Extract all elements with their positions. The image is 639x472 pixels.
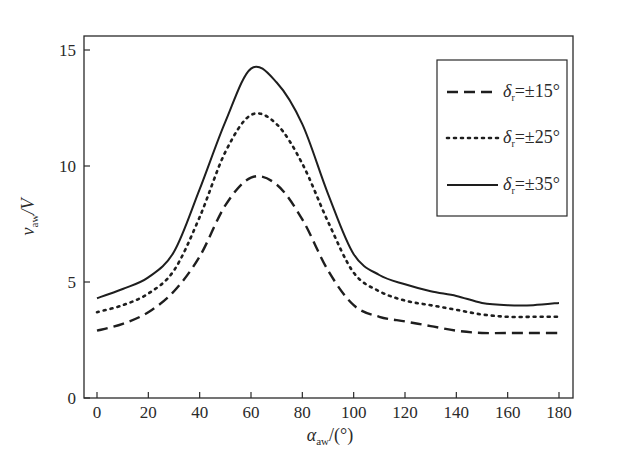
x-tick-label: 100 xyxy=(341,403,367,422)
x-tick-label: 160 xyxy=(495,403,521,422)
x-tick-label: 20 xyxy=(140,403,157,422)
x-tick-label: 140 xyxy=(444,403,470,422)
legend: δr=±15°δr=±25°δr=±35° xyxy=(437,60,567,216)
x-tick-label: 120 xyxy=(392,403,418,422)
x-tick-label: 180 xyxy=(546,403,572,422)
x-axis-ticks: 020406080100120140160180 xyxy=(93,392,572,422)
x-axis-label: αaw/(°) xyxy=(307,425,353,447)
x-tick-label: 60 xyxy=(243,403,260,422)
y-tick-label: 15 xyxy=(59,41,76,60)
y-tick-label: 10 xyxy=(59,157,76,176)
x-tick-label: 80 xyxy=(294,403,311,422)
chart: 020406080100120140160180 051015 αaw/(°) … xyxy=(0,0,639,472)
y-axis-ticks: 051015 xyxy=(59,41,90,408)
y-tick-label: 0 xyxy=(68,389,77,408)
x-tick-label: 0 xyxy=(93,403,102,422)
y-tick-label: 5 xyxy=(68,273,77,292)
y-axis-label: vaw/V xyxy=(18,197,40,236)
x-tick-label: 40 xyxy=(191,403,208,422)
